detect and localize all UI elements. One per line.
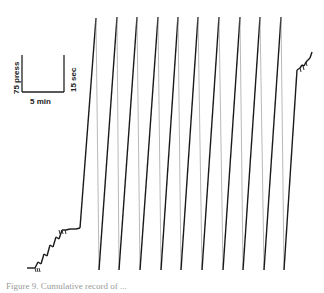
cumulative-trace	[27, 17, 312, 272]
scale-bar-right-label: 15 sec	[69, 68, 78, 92]
scale-bar	[22, 55, 64, 92]
scale-bar-vertical-label: 75 press	[12, 62, 21, 94]
scale-bar-horizontal-label: 5 min	[30, 97, 51, 106]
figure-caption: Figure 9. Cumulative record of ...	[6, 281, 127, 291]
